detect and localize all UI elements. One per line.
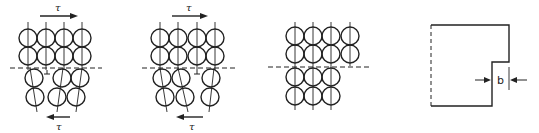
arrow-right-icon: [200, 13, 208, 19]
shear-label-top-b: τ: [186, 2, 192, 13]
shear-label-bottom-b: τ: [189, 121, 195, 132]
shear-label-top-a: τ: [55, 2, 61, 13]
arrow-right-icon: [484, 77, 491, 83]
arrow-left-icon: [176, 114, 184, 120]
arrow-left-icon: [46, 114, 54, 120]
dislocation-slip-diagram: τ τ τ τ b: [0, 0, 539, 133]
panel-c: [268, 22, 372, 110]
shear-label-bottom-a: τ: [56, 121, 62, 132]
burgers-vector-label: b: [497, 74, 504, 87]
arrow-right-icon: [70, 13, 78, 19]
panel-d: [431, 25, 527, 106]
arrow-left-icon: [510, 77, 517, 83]
panel-a: [10, 13, 102, 120]
panel-b: [142, 13, 235, 120]
